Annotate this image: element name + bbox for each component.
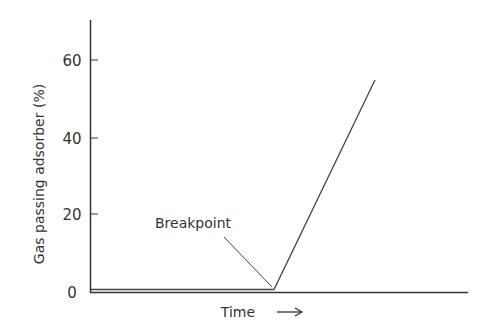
x-axis-label: Time [220, 304, 255, 320]
y-tick-label-60: 60 [62, 52, 81, 70]
y-tick-label-40: 40 [62, 130, 81, 148]
right-arrow-icon [277, 308, 302, 316]
breakthrough-curve [91, 80, 375, 290]
y-axis-label: Gas passing adsorber (%) [31, 84, 47, 264]
breakpoint-pointer [224, 237, 272, 287]
breakpoint-label: Breakpoint [155, 215, 232, 231]
y-tick-label-0: 0 [67, 284, 77, 302]
chart-canvas: 60 40 20 0 Gas passing adsorber (%) Time… [0, 0, 491, 325]
y-tick-label-20: 20 [62, 206, 81, 224]
